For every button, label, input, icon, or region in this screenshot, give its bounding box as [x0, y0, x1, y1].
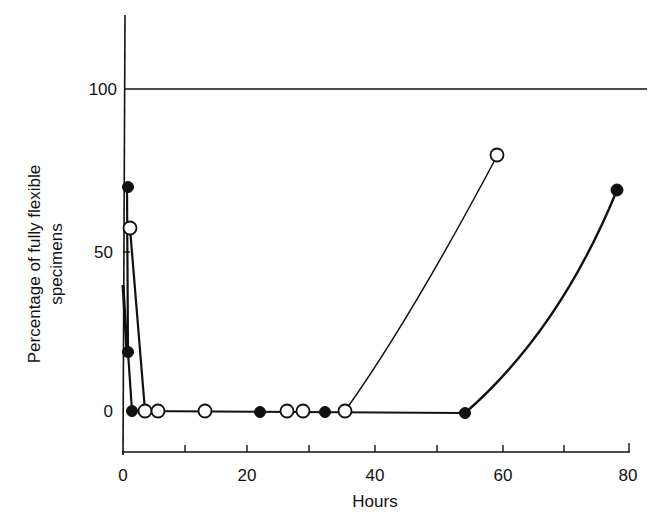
filled-point	[123, 182, 134, 193]
open-point	[199, 405, 212, 418]
x-axis-title: Hours	[352, 492, 397, 511]
open-point	[152, 405, 165, 418]
y-tick-label-0: 0	[104, 402, 113, 421]
y-axis-title-line1: Percentage of fully flexible	[25, 165, 44, 363]
open-point	[281, 405, 294, 418]
y-tick-label-100: 100	[89, 80, 117, 99]
open-point	[339, 405, 352, 418]
open-point	[124, 222, 137, 235]
y-axis-title-line2: specimens	[47, 223, 66, 304]
series-filled-markers	[123, 182, 624, 419]
filled-point	[255, 407, 266, 418]
chart: 100 50 0 0 20 40 60 80 Hours Percentage …	[0, 0, 653, 516]
x-tick-label-40: 40	[366, 466, 385, 485]
filled-point	[127, 406, 138, 417]
filled-point	[123, 347, 134, 358]
x-tick-label-60: 60	[494, 466, 513, 485]
series-lines	[123, 156, 617, 413]
y-axis-line	[123, 15, 125, 455]
y-tick-label-50: 50	[94, 243, 113, 262]
filled-point	[611, 184, 623, 196]
series-open-markers	[124, 149, 504, 418]
x-tick-label-80: 80	[619, 466, 638, 485]
x-tick-label-20: 20	[238, 466, 257, 485]
open-point	[297, 405, 310, 418]
x-ticks	[185, 443, 629, 452]
x-tick-label-0: 0	[118, 466, 127, 485]
filled-point	[460, 408, 471, 419]
open-point	[491, 149, 504, 162]
filled-point	[320, 407, 331, 418]
open-point	[139, 405, 152, 418]
